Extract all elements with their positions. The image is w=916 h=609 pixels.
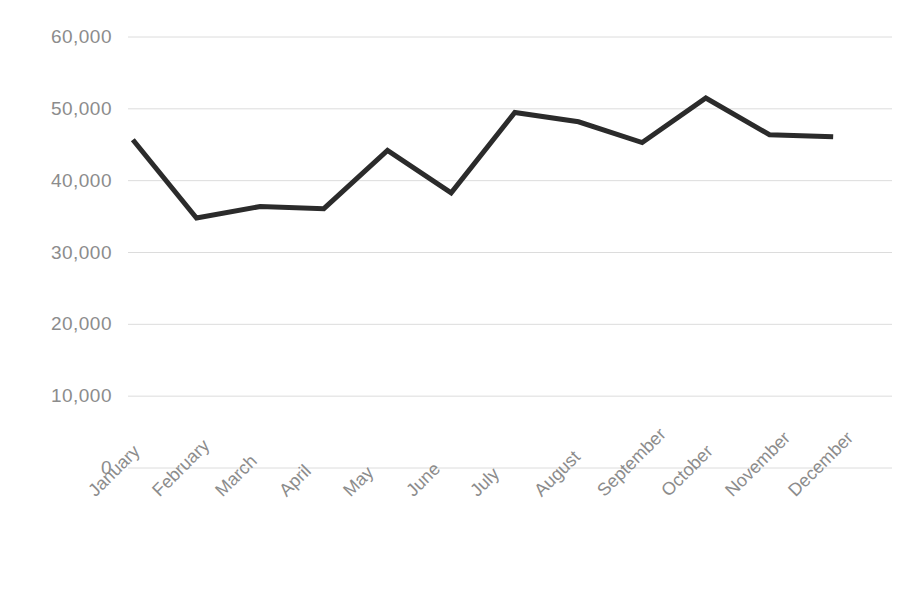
y-axis-tick-label: 50,000 bbox=[51, 99, 112, 118]
y-axis-tick-label: 20,000 bbox=[51, 314, 112, 333]
plot-area bbox=[0, 0, 916, 609]
y-axis-tick-label: 40,000 bbox=[51, 171, 112, 190]
y-axis-tick-label: 10,000 bbox=[51, 386, 112, 405]
y-axis-tick-label: 60,000 bbox=[51, 27, 112, 46]
data-series-line bbox=[133, 98, 833, 218]
gridline-group bbox=[128, 37, 892, 468]
y-axis-tick-label: 30,000 bbox=[51, 243, 112, 262]
line-chart: 60,00050,00040,00030,00020,00010,0000 Ja… bbox=[0, 0, 916, 609]
